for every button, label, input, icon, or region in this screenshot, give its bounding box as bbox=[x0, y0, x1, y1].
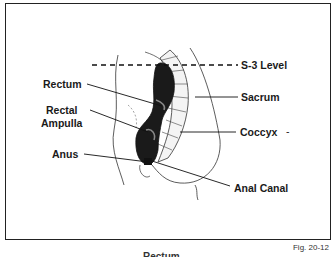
label-coccyx: Coccyx bbox=[240, 126, 277, 138]
label-rectal: Rectal bbox=[46, 104, 78, 116]
label-sacrum: Sacrum bbox=[241, 91, 280, 103]
label-anus: Anus bbox=[52, 148, 78, 160]
label-anal-canal: Anal Canal bbox=[234, 182, 288, 194]
label-ampulla: Ampulla bbox=[41, 117, 82, 129]
figure-caption: Rectum bbox=[143, 251, 180, 257]
label-s3-level: S-3 Level bbox=[241, 59, 287, 71]
label-rectum: Rectum bbox=[43, 78, 82, 90]
coccyx-mark: - bbox=[286, 125, 290, 137]
figure-number: Fig. 20-12 bbox=[293, 243, 329, 252]
